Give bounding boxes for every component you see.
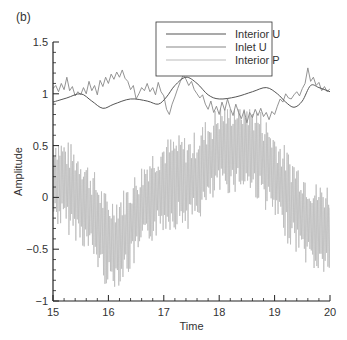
x-tick-label: 17 [158, 306, 170, 318]
x-tick-label: 16 [102, 306, 114, 318]
legend: Interior UInlet UInterior P [156, 22, 280, 76]
x-axis-title: Time [179, 320, 203, 332]
y-tick-label: 0.5 [33, 140, 48, 152]
y-tick-label: −0.5 [26, 243, 48, 255]
x-tick-label: 15 [47, 306, 59, 318]
x-tick-label: 19 [268, 306, 280, 318]
x-tick-label: 20 [324, 306, 336, 318]
legend-label: Inlet U [235, 41, 267, 53]
series-interior-p [53, 109, 330, 286]
y-tick-label: 1 [42, 88, 48, 100]
y-axis-title: Amplitude [12, 147, 24, 196]
chart: 151617181920−1−0.500.511.5 Interior UInl… [0, 0, 347, 340]
legend-label: Interior U [235, 28, 280, 40]
y-tick-label: 1.5 [33, 36, 48, 48]
y-tick-label: 0 [42, 191, 48, 203]
x-tick-label: 18 [213, 306, 225, 318]
legend-label: Interior P [235, 54, 280, 66]
plot-area [53, 68, 330, 287]
y-tick-label: −1 [35, 295, 48, 307]
